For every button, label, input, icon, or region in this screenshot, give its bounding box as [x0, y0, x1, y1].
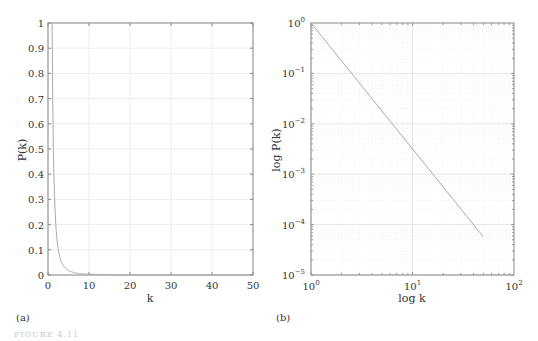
axis-ticks: 10010110210−510−410−310−210−1100	[282, 16, 523, 292]
tick-label: 102	[505, 279, 522, 292]
figure-caption: FIGURE 4.11	[14, 330, 79, 339]
tick-label: 100	[288, 16, 305, 29]
tick-label: 10−2	[282, 117, 305, 130]
tick-label: 10−3	[282, 167, 305, 180]
tick-label: 100	[302, 279, 319, 292]
loglog-plot-panel: 10010110210−510−410−310−210−1100 log k l…	[0, 0, 538, 320]
tick-label: 10−4	[282, 218, 306, 231]
y-axis-label: log P(k)	[270, 128, 283, 171]
panel-label-a: (a)	[16, 312, 30, 323]
tick-label: 10−1	[282, 66, 305, 79]
panel-label-b: (b)	[276, 312, 290, 323]
tick-label: 101	[404, 279, 421, 292]
data-curve	[311, 23, 483, 237]
x-axis-label: log k	[398, 292, 426, 305]
tick-label: 10−5	[282, 268, 305, 281]
